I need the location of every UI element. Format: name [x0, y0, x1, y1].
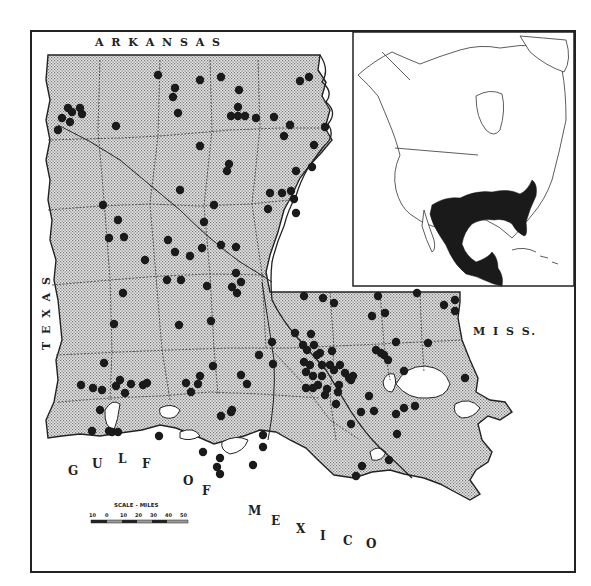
- occurrence-dot: [209, 362, 217, 370]
- occurrence-dot: [169, 93, 177, 101]
- occurrence-dot: [310, 341, 318, 349]
- occurrence-dot: [303, 346, 311, 354]
- occurrence-dot: [318, 361, 326, 369]
- occurrence-dot: [318, 372, 326, 380]
- occurrence-dot: [194, 380, 202, 388]
- occurrence-dot: [280, 132, 288, 140]
- occurrence-dot: [232, 269, 240, 277]
- occurrence-dot: [54, 126, 62, 134]
- occurrence-dot: [332, 400, 340, 408]
- occurrence-dot: [223, 167, 231, 175]
- svg-text:F: F: [202, 484, 211, 498]
- occurrence-dot: [105, 234, 113, 242]
- occurrence-dot: [164, 236, 172, 244]
- occurrence-dot: [110, 320, 118, 328]
- label-arkansas: A R K A N S A S: [94, 36, 222, 49]
- occurrence-dot: [334, 388, 342, 396]
- occurrence-dot: [217, 73, 225, 81]
- svg-text:F: F: [142, 457, 151, 471]
- occurrence-dot: [296, 77, 304, 85]
- occurrence-dot: [119, 289, 127, 297]
- occurrence-dot: [68, 108, 76, 116]
- occurrence-dot: [171, 248, 179, 256]
- occurrence-dot: [413, 289, 421, 297]
- occurrence-dot: [155, 432, 163, 440]
- occurrence-dot: [228, 406, 236, 414]
- label-texas: T E X A S: [40, 275, 53, 350]
- occurrence-dot: [384, 356, 392, 364]
- occurrence-dot: [286, 121, 294, 129]
- occurrence-dot: [186, 252, 194, 260]
- occurrence-dot: [176, 186, 184, 194]
- occurrence-dot: [400, 367, 408, 375]
- occurrence-dot: [196, 76, 204, 84]
- occurrence-dot: [139, 381, 147, 389]
- occurrence-dot: [127, 380, 135, 388]
- label-gulf: G U L F: [68, 452, 151, 478]
- occurrence-dot: [234, 103, 242, 111]
- occurrence-dot: [233, 289, 241, 297]
- occurrence-dot: [266, 189, 274, 197]
- svg-text:X: X: [296, 522, 306, 536]
- occurrence-dot: [352, 472, 360, 480]
- occurrence-dot: [174, 109, 182, 117]
- occurrence-dot: [309, 372, 317, 380]
- occurrence-dot: [163, 276, 171, 284]
- occurrence-dot: [365, 392, 373, 400]
- north-america-inset: [353, 32, 574, 286]
- occurrence-dot: [196, 372, 204, 380]
- occurrence-dot: [249, 461, 257, 469]
- occurrence-dot: [392, 410, 400, 418]
- occurrence-dot: [141, 256, 149, 264]
- occurrence-dot: [100, 359, 108, 367]
- occurrence-dot: [203, 282, 211, 290]
- occurrence-dot: [310, 141, 318, 149]
- occurrence-dot: [264, 205, 272, 213]
- occurrence-dot: [177, 276, 185, 284]
- occurrence-dot: [241, 112, 249, 120]
- occurrence-dot: [217, 412, 225, 420]
- occurrence-dot: [300, 292, 308, 300]
- occurrence-dot: [440, 301, 448, 309]
- occurrence-dot: [292, 209, 300, 217]
- svg-text:O: O: [366, 537, 376, 551]
- occurrence-dot: [216, 470, 224, 478]
- occurrence-dot: [385, 456, 393, 464]
- vermilion-bay: [222, 437, 248, 454]
- occurrence-dot: [321, 391, 329, 399]
- occurrence-dot: [237, 278, 245, 286]
- occurrence-dot: [370, 407, 378, 415]
- occurrence-dot: [411, 402, 419, 410]
- occurrence-dot: [330, 366, 338, 374]
- occurrence-dot: [328, 347, 336, 355]
- occurrence-dot: [112, 382, 120, 390]
- occurrence-dot: [237, 371, 245, 379]
- occurrence-dot: [98, 386, 106, 394]
- svg-text:20: 20: [135, 512, 142, 518]
- svg-text:30: 30: [150, 512, 157, 518]
- label-mexico: M E X I C O: [248, 504, 376, 551]
- occurrence-dot: [175, 321, 183, 329]
- louisiana-distribution-map: A R K A N S A S T E X A S M I S S. G U L…: [0, 0, 591, 586]
- scale-title: SCALE - MILES: [114, 502, 158, 508]
- occurrence-dot: [451, 296, 459, 304]
- occurrence-dot: [121, 389, 129, 397]
- occurrence-dot: [347, 420, 355, 428]
- occurrence-dot: [400, 404, 408, 412]
- occurrence-dot: [207, 317, 215, 325]
- occurrence-dot: [120, 233, 128, 241]
- occurrence-dot: [270, 113, 278, 121]
- svg-text:40: 40: [165, 512, 172, 518]
- occurrence-dot: [78, 110, 86, 118]
- occurrence-dot: [347, 376, 355, 384]
- occurrence-dot: [216, 454, 224, 462]
- occurrence-dot: [96, 406, 104, 414]
- occurrence-dot: [200, 218, 208, 226]
- occurrence-dot: [307, 330, 315, 338]
- occurrence-dot: [321, 123, 329, 131]
- label-of: O F: [183, 474, 211, 498]
- occurrence-dot: [196, 142, 204, 150]
- occurrence-dot: [114, 216, 122, 224]
- svg-text:G: G: [68, 464, 78, 478]
- occurrence-dot: [114, 428, 122, 436]
